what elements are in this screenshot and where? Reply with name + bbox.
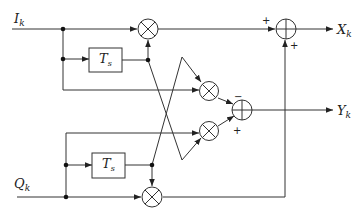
ik-sub: k xyxy=(19,18,24,28)
yk-sub: k xyxy=(346,110,351,120)
qk-sub: k xyxy=(25,183,30,193)
output-label-xk: Xk xyxy=(337,23,352,36)
delay-i-sub: s xyxy=(108,59,112,68)
block-diagram-canvas xyxy=(0,0,364,216)
sum-x-sign-left: + xyxy=(262,16,270,26)
delay-q-sub: s xyxy=(111,164,115,173)
delay-i-label: Ts xyxy=(89,52,122,65)
yk-base: Y xyxy=(337,103,346,118)
delay-q-base: T xyxy=(102,156,111,171)
sum-y xyxy=(232,100,252,120)
delay-q-label: Ts xyxy=(92,157,125,170)
delay-i-base: T xyxy=(99,51,108,66)
mult-mid-upper xyxy=(200,82,219,101)
input-label-ik: Ik xyxy=(14,12,25,25)
sum-y-sign-bottom: + xyxy=(233,126,241,136)
sum-x xyxy=(276,19,296,39)
output-label-yk: Yk xyxy=(337,104,351,117)
input-label-qk: Qk xyxy=(14,177,30,190)
sum-y-sign-top: − xyxy=(234,92,242,102)
sum-x-sign-bottom: + xyxy=(290,41,298,51)
delay-i-cross-line xyxy=(148,60,201,160)
mult-bottom xyxy=(142,187,162,207)
mult-top xyxy=(138,19,158,39)
mult-mid-lower-to-sum-y xyxy=(218,116,234,126)
xk-base: X xyxy=(337,22,346,37)
mult-mid-upper-to-sum-y xyxy=(218,98,233,104)
qk-base: Q xyxy=(14,176,25,191)
mult-bottom-to-sum-x xyxy=(163,40,285,197)
mult-mid-lower xyxy=(200,122,219,141)
delay-q-cross-line xyxy=(152,57,201,165)
xk-sub: k xyxy=(346,29,351,39)
